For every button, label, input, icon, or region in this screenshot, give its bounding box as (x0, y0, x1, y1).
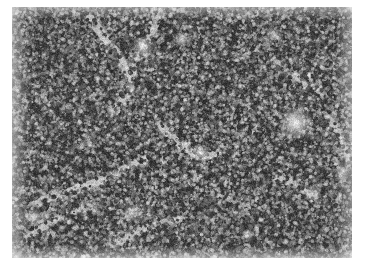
histology-micrograph (12, 7, 352, 258)
figure-root (0, 0, 365, 273)
micrograph-image (12, 7, 352, 258)
